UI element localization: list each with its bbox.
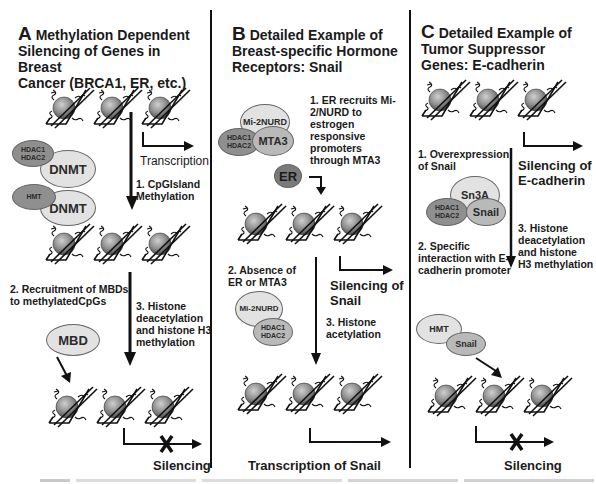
step3-label: 3. Histonedeacetylationand histone H3met… <box>136 300 211 348</box>
blocked-transcription-arrow <box>122 428 206 452</box>
figure-caption-cropped <box>40 477 596 484</box>
step2-label: 2. Recruitment of MBDsto methylatedCpGs <box>10 283 128 307</box>
step2-label: 2. Absence ofER or MTA3 <box>228 264 296 288</box>
hdac-protein: HDAC1HDAC2 <box>426 198 468 226</box>
snail-protein-2: Snail <box>446 332 486 356</box>
mta3-protein: MTA3 <box>252 126 294 156</box>
outcome-label: Silencing <box>504 458 562 473</box>
panel-a-title: A Methylation Dependent Silencing of Gen… <box>18 26 203 91</box>
hdac-protein: HDAC1HDAC2 <box>12 140 54 167</box>
step3-label: 3. Histonedeacetylationand histoneH3 met… <box>518 222 593 270</box>
panel-letter: A <box>18 23 32 44</box>
silencing-arrow <box>522 132 588 152</box>
panel-b-title: B Detailed Example of Breast-specific Ho… <box>232 26 402 75</box>
snail-protein: Snail <box>466 198 506 226</box>
nucleosome-array-bottom <box>234 370 394 420</box>
nucleosome-array-bottom <box>424 372 584 422</box>
nucleosome-array-middle <box>42 220 202 270</box>
er-arrow <box>309 175 329 197</box>
outcome-label: Transcription of Snail <box>248 458 381 473</box>
divider-a-b <box>210 10 212 468</box>
mbd-arrow <box>55 356 75 386</box>
step1-label: 1. Overexpressionof Snail <box>418 148 509 172</box>
nucleosome-array-top <box>42 84 202 134</box>
hmt-protein: HMT <box>12 184 56 210</box>
panel-c-title: C Detailed Example of Tumor Suppressor G… <box>421 24 596 73</box>
step3-label: 3. Histoneacetylation <box>326 316 381 340</box>
step3-arrow <box>124 272 136 372</box>
panel-letter: C <box>421 21 435 42</box>
nucleosome-array-middle <box>234 200 394 250</box>
transcription-label: Transcription <box>140 154 209 168</box>
step1-label: 1. ER recruits Mi-2/NURD toestrogenrespo… <box>310 94 396 166</box>
nucleosome-array-top <box>418 76 578 126</box>
step2-label: 2. Specificinteraction with E-cadherin p… <box>418 240 511 276</box>
nucleosome-array-bottom <box>45 383 205 433</box>
mbd-protein: MBD <box>46 324 100 356</box>
silencing-label: Silencing ofSnail <box>330 278 404 308</box>
blocked-transcription-arrow <box>474 426 560 450</box>
step3-arrow <box>310 257 322 367</box>
er-protein: ER <box>274 164 302 188</box>
step1-label: 1. CpGIslandMethylation <box>136 178 200 202</box>
silencing-arrow <box>338 256 398 276</box>
silencing-label: Silencing ofE-cadherin <box>518 158 592 188</box>
hdac-protein-2: HDAC1HDAC2 <box>253 318 293 346</box>
divider-b-c <box>409 10 411 468</box>
outcome-label: Silencing <box>153 458 211 473</box>
panel-letter: B <box>232 23 246 44</box>
transcription-arrow <box>308 428 394 448</box>
transcription-arrow <box>140 132 200 152</box>
